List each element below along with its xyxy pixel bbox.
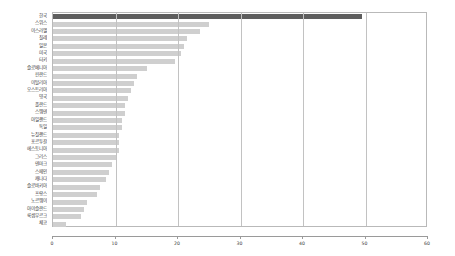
y-axis-label: 프랑스	[0, 191, 47, 196]
bar	[53, 200, 87, 205]
x-axis-tick-label: 30	[230, 241, 250, 247]
x-axis-tick	[115, 236, 116, 239]
y-axis-label: 오스트리아	[0, 87, 47, 92]
bar	[53, 140, 119, 145]
y-axis-label: 아이슬란드	[0, 206, 47, 211]
y-axis-label: 미국	[0, 50, 47, 55]
y-axis-label: 폴란드	[0, 102, 47, 107]
x-axis-tick-label: 0	[42, 241, 62, 247]
bar	[53, 155, 116, 160]
y-axis-label: 일본	[0, 43, 47, 48]
x-axis-tick-label: 40	[292, 241, 312, 247]
x-axis-tick	[427, 236, 428, 239]
bar	[53, 192, 97, 197]
bar	[53, 88, 131, 93]
y-axis-label: 스웨덴	[0, 109, 47, 114]
x-axis-tick	[365, 236, 366, 239]
y-axis-label: 이탈리아	[0, 80, 47, 85]
y-axis-label: 핀란드	[0, 72, 47, 77]
bar	[53, 59, 175, 64]
bar	[53, 125, 122, 130]
x-axis-tick	[240, 236, 241, 239]
gridline	[366, 13, 367, 226]
bar	[53, 44, 184, 49]
bar	[53, 148, 119, 153]
x-axis-tick-label: 50	[355, 241, 375, 247]
bar	[53, 207, 84, 212]
y-axis-label: 아일랜드	[0, 117, 47, 122]
plot-area	[52, 12, 427, 227]
bar	[53, 51, 181, 56]
y-axis-label: 슬로바키아	[0, 183, 47, 188]
bar	[53, 133, 119, 138]
y-axis-label: 노르웨이	[0, 198, 47, 203]
bar	[53, 74, 137, 79]
y-axis-label: 터키	[0, 57, 47, 62]
y-axis-label: 한국	[0, 13, 47, 18]
y-axis-label: 스페인	[0, 169, 47, 174]
bar	[53, 214, 81, 219]
bar	[53, 222, 66, 227]
y-axis-label: 영국	[0, 94, 47, 99]
bar	[53, 81, 134, 86]
y-axis-label: 체코	[0, 220, 47, 225]
bar	[53, 177, 106, 182]
gridline	[178, 13, 179, 226]
bar	[53, 36, 187, 41]
x-axis-tick	[177, 236, 178, 239]
bar	[53, 96, 128, 101]
bar	[53, 162, 112, 167]
x-axis-tick-label: 60	[417, 241, 437, 247]
x-axis-tick	[52, 236, 53, 239]
bars-layer	[53, 13, 426, 226]
bar	[53, 118, 122, 123]
y-axis-label: 칠레	[0, 35, 47, 40]
bar	[53, 170, 109, 175]
y-axis-label: 그리스	[0, 154, 47, 159]
y-axis-label: 에스토니아	[0, 146, 47, 151]
bar	[53, 185, 100, 190]
y-axis-label: 독일	[0, 124, 47, 129]
y-axis-label: 룩셈부르크	[0, 213, 47, 218]
bar	[53, 103, 125, 108]
bar-chart: 한국스위스이스라엘칠레일본미국터키슬로베니아핀란드이탈리아오스트리아영국폴란드스…	[0, 0, 455, 256]
y-axis-label: 슬로베니아	[0, 65, 47, 70]
y-axis-label: 뉴질랜드	[0, 132, 47, 137]
bar	[53, 66, 147, 71]
gridline	[116, 13, 117, 226]
bar	[53, 22, 209, 27]
gridline	[241, 13, 242, 226]
y-axis-label: 포르투갈	[0, 139, 47, 144]
bar	[53, 111, 125, 116]
y-axis-label: 스위스	[0, 20, 47, 25]
y-axis-label: 이스라엘	[0, 28, 47, 33]
y-axis-label: 덴마크	[0, 161, 47, 166]
bar	[53, 14, 362, 19]
x-axis-tick	[302, 236, 303, 239]
x-axis-tick-label: 20	[167, 241, 187, 247]
y-axis-category-labels: 한국스위스이스라엘칠레일본미국터키슬로베니아핀란드이탈리아오스트리아영국폴란드스…	[0, 12, 49, 227]
gridline	[303, 13, 304, 226]
y-axis-label: 캐나다	[0, 176, 47, 181]
x-axis-tick-label: 10	[105, 241, 125, 247]
